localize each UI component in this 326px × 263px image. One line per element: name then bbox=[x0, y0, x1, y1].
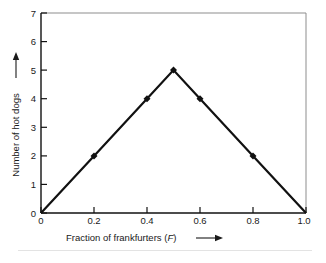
x-axis-tick-labels: 0 0.2 0.4 0.6 0.8 1.0 bbox=[38, 215, 310, 226]
x-tick-label: 0.8 bbox=[246, 215, 259, 226]
x-axis-title-close: ) bbox=[173, 232, 176, 243]
bottom-divider bbox=[18, 250, 312, 251]
y-tick-label: 4 bbox=[31, 93, 36, 104]
y-axis-title: Number of hot dogs bbox=[10, 93, 21, 177]
y-tick-label: 5 bbox=[31, 65, 36, 76]
x-tick-label: 0.4 bbox=[140, 215, 153, 226]
y-tick-label: 1 bbox=[31, 179, 36, 190]
x-axis-title: Fraction of frankfurters (F) bbox=[66, 232, 176, 243]
plot-background bbox=[41, 13, 306, 213]
x-tick-label: 1.0 bbox=[297, 215, 310, 226]
x-tick-label: 0.2 bbox=[87, 215, 100, 226]
x-axis-title-group: Fraction of frankfurters (F) bbox=[66, 232, 223, 243]
x-tick-label: 0 bbox=[38, 215, 43, 226]
y-tick-label: 2 bbox=[31, 150, 36, 161]
y-tick-label: 7 bbox=[31, 8, 36, 19]
y-axis-title-group: Number of hot dogs bbox=[10, 52, 21, 177]
arrow-up-icon bbox=[13, 52, 19, 78]
x-tick-label: 0.6 bbox=[193, 215, 206, 226]
x-axis-title-text: Fraction of frankfurters ( bbox=[66, 232, 168, 243]
y-tick-label: 6 bbox=[31, 36, 36, 47]
arrow-right-icon bbox=[196, 235, 223, 241]
figure-container: 7 6 5 4 3 2 1 0 0 0.2 0.4 0.6 0.8 1.0 bbox=[0, 0, 326, 263]
chart-canvas: 7 6 5 4 3 2 1 0 0 0.2 0.4 0.6 0.8 1.0 bbox=[0, 0, 326, 263]
y-tick-label: 3 bbox=[31, 122, 36, 133]
y-tick-label: 0 bbox=[31, 208, 36, 219]
y-axis-tick-labels: 7 6 5 4 3 2 1 0 bbox=[31, 8, 36, 219]
